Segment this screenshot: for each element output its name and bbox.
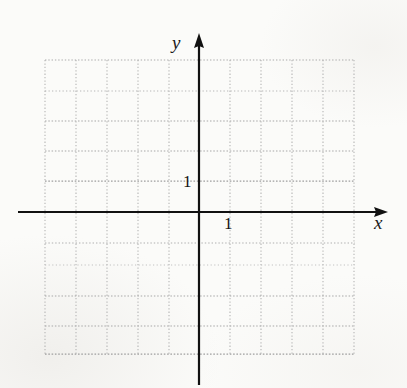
y-axis-tick-label-1: 1 [183, 173, 192, 190]
y-axis-label: y [172, 33, 180, 52]
axis-lines [18, 33, 388, 385]
y-axis-arrowhead [194, 33, 204, 48]
x-axis-label: x [374, 213, 382, 232]
coordinate-plane-svg [0, 0, 407, 388]
graph-figure: y x 1 1 [0, 0, 407, 388]
x-axis-tick-label-1: 1 [224, 215, 233, 232]
